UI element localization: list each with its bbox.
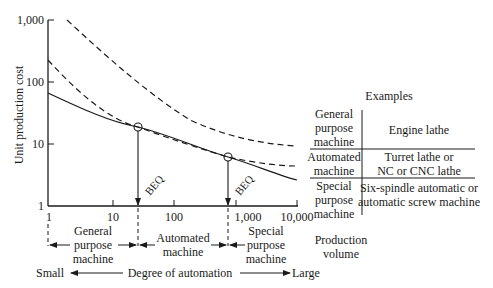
example-row-general: General purpose machine Engine lathe [314, 107, 449, 149]
svg-text:purpose: purpose [315, 193, 353, 207]
y-tick-10: 10 [32, 137, 44, 151]
example-row-automated: Automated machine Turret lathe or NC or … [307, 150, 461, 178]
svg-text:volume: volume [323, 247, 359, 261]
automation-large-label: Large [292, 266, 320, 280]
svg-text:machine: machine [314, 207, 355, 221]
svg-text:Automated: Automated [156, 231, 209, 245]
special-purpose-cost-curve [67, 20, 297, 146]
x-tick-100: 100 [165, 210, 183, 224]
y-tick-1: 1 [38, 199, 44, 213]
x-tick-1000: 1,000 [235, 210, 262, 224]
svg-text:machine: machine [314, 135, 355, 149]
automation-small-label: Small [36, 266, 65, 280]
example-row-special: Special purpose machine Six-spindle auto… [314, 179, 480, 221]
x-tick-10: 10 [107, 210, 119, 224]
svg-text:Production: Production [315, 233, 368, 247]
beq-label-2: BEQ [232, 173, 255, 198]
automated-cost-curve [48, 60, 297, 166]
y-tick-100: 100 [26, 75, 44, 89]
svg-text:machine: machine [163, 245, 204, 259]
y-axis-label: Unit production cost [12, 65, 26, 164]
svg-text:Automated: Automated [307, 150, 360, 164]
region-general-purpose: General purpose machine [73, 224, 114, 266]
beq-label-1: BEQ [142, 173, 165, 198]
automation-center-label: Degree of automation [128, 266, 233, 280]
svg-text:Turret lathe or: Turret lathe or [385, 150, 454, 164]
x-tick-1: 1 [46, 210, 52, 224]
region-special-purpose: Special purpose machine [246, 224, 287, 266]
examples-table: Examples General purpose machine Engine … [307, 89, 480, 221]
production-volume-label: Production volume [315, 233, 368, 261]
svg-text:General: General [74, 224, 113, 238]
region-automated: Automated machine [156, 231, 209, 259]
svg-text:Engine lathe: Engine lathe [389, 123, 449, 137]
x-tick-10000: 10,000 [281, 210, 314, 224]
svg-text:NC or CNC lathe: NC or CNC lathe [377, 164, 461, 178]
general-purpose-cost-curve [48, 93, 297, 180]
svg-text:Special: Special [316, 179, 352, 193]
svg-text:Special: Special [248, 224, 284, 238]
svg-text:General: General [315, 107, 354, 121]
svg-text:machine: machine [314, 164, 355, 178]
svg-text:purpose: purpose [315, 121, 353, 135]
break-even-diagram: 1,000 100 10 1 Unit production cost 1 10… [0, 0, 493, 288]
svg-text:purpose: purpose [74, 238, 112, 252]
svg-text:machine: machine [246, 252, 287, 266]
examples-heading: Examples [365, 89, 413, 103]
axes [48, 20, 298, 206]
svg-text:purpose: purpose [247, 238, 285, 252]
y-tick-1000: 1,000 [17, 13, 44, 27]
svg-text:machine: machine [73, 252, 114, 266]
svg-text:automatic screw machine: automatic screw machine [358, 195, 480, 209]
svg-text:Six-spindle automatic or: Six-spindle automatic or [360, 181, 478, 195]
